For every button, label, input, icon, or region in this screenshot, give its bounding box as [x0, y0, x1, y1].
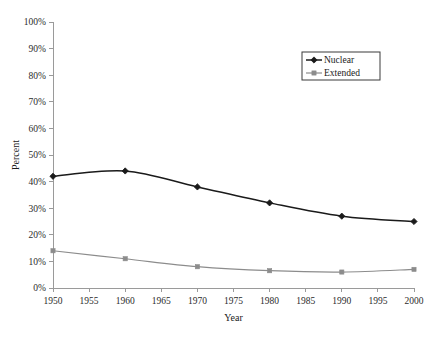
y-tick-label: 40%	[29, 177, 47, 187]
data-point-marker	[195, 265, 199, 269]
x-axis-title: Year	[224, 312, 243, 323]
data-point-marker	[123, 257, 127, 261]
y-tick-label: 30%	[29, 204, 47, 214]
data-point-marker	[50, 173, 56, 179]
x-tick-label: 1990	[332, 296, 351, 306]
data-point-marker	[268, 269, 272, 273]
x-tick-label: 1995	[368, 296, 387, 306]
x-tick-label: 1960	[116, 296, 135, 306]
x-tick-label: 1955	[80, 296, 99, 306]
legend-label-extended: Extended	[324, 68, 360, 78]
data-point-marker	[339, 213, 345, 219]
data-point-marker	[266, 200, 272, 206]
x-tick-label: 1970	[188, 296, 207, 306]
data-point-marker	[340, 270, 344, 274]
data-point-marker	[194, 184, 200, 190]
series-line	[53, 251, 414, 272]
data-point-marker	[412, 267, 416, 271]
chart-container: 0%10%20%30%40%50%60%70%80%90%100%1950195…	[0, 0, 430, 345]
data-point-marker	[411, 218, 417, 224]
x-tick-label: 1975	[224, 296, 243, 306]
y-tick-label: 0%	[33, 283, 46, 293]
data-point-marker	[122, 168, 128, 174]
series-nuclear	[50, 168, 417, 225]
y-tick-label: 10%	[29, 257, 47, 267]
y-axis-title: Percent	[10, 140, 21, 170]
y-tick-label: 50%	[29, 150, 47, 160]
series-line	[53, 171, 414, 222]
series-extended	[51, 249, 416, 274]
x-tick-label: 2000	[405, 296, 424, 306]
x-tick-label: 1985	[296, 296, 315, 306]
x-tick-label: 1950	[44, 296, 63, 306]
y-tick-label: 20%	[29, 230, 47, 240]
data-point-marker	[51, 249, 55, 253]
line-chart: 0%10%20%30%40%50%60%70%80%90%100%1950195…	[0, 0, 430, 345]
chart-legend: NuclearExtended	[302, 52, 380, 80]
y-tick-label: 60%	[29, 124, 47, 134]
y-tick-label: 80%	[29, 71, 47, 81]
legend-marker-sample	[312, 71, 316, 75]
legend-label-nuclear: Nuclear	[324, 55, 355, 65]
y-tick-label: 90%	[29, 44, 47, 54]
y-tick-label: 70%	[29, 97, 47, 107]
x-tick-label: 1965	[152, 296, 171, 306]
y-tick-label: 100%	[24, 17, 46, 27]
x-tick-label: 1980	[260, 296, 279, 306]
